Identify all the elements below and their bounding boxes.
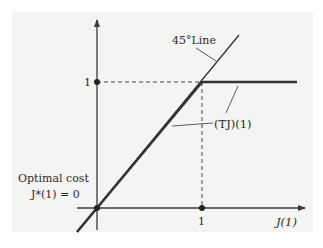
origin-dot (94, 205, 100, 211)
label-optimal-cost: Optimal cost (18, 172, 89, 185)
leader-tj-slope (172, 123, 213, 126)
y-tick-label-1: 1 (84, 76, 91, 89)
leader-tj-flat (226, 86, 238, 113)
tj-curve (77, 82, 297, 232)
label-45-line: 45°Line (172, 34, 216, 47)
label-optimal-value: J*(1) = 0 (30, 188, 80, 201)
label-tj: (TJ)(1) (214, 117, 252, 131)
y-tick-dot (94, 79, 100, 85)
x-tick-dot (199, 205, 205, 211)
x-tick-label-1: 1 (198, 215, 205, 228)
x-axis-label: J(1) (274, 215, 297, 229)
fixed-point-diagram: 45°Line (TJ)(1) Optimal cost J*(1) = 0 1… (0, 0, 323, 248)
leader-45-line (196, 48, 216, 61)
